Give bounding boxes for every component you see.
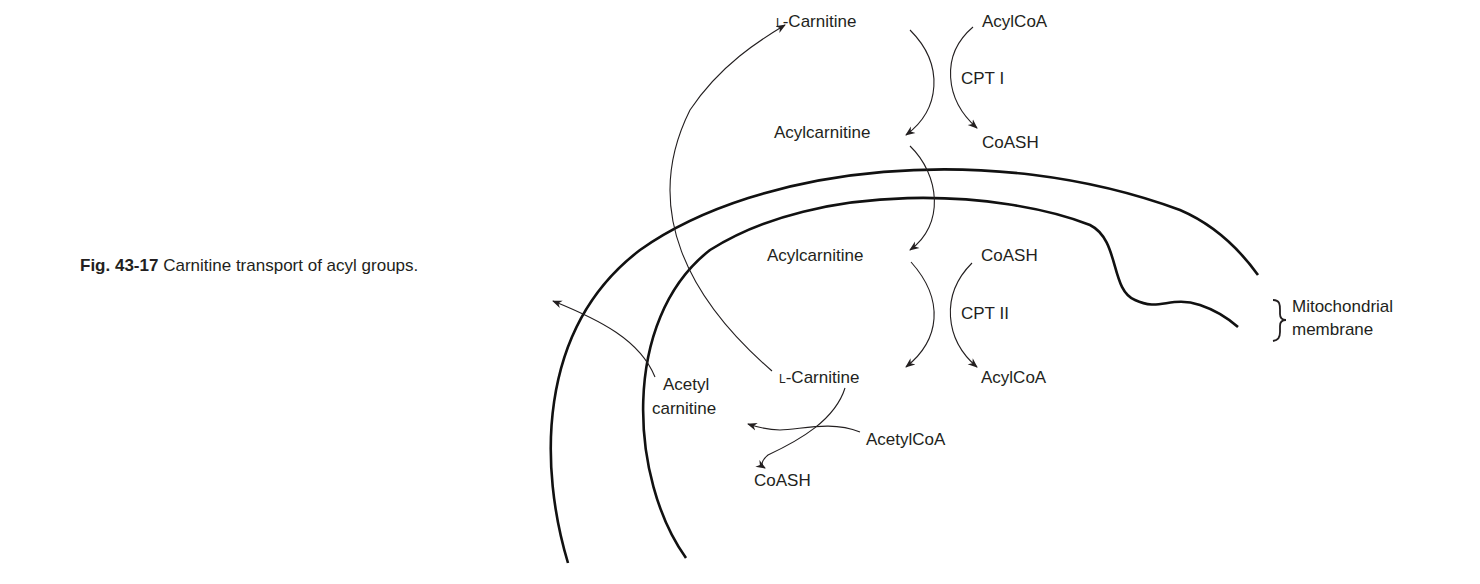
label-acylcarnitine-outer: Acylcarnitine: [774, 123, 870, 142]
label-coash-inner: CoASH: [981, 246, 1038, 265]
inner-membrane: [643, 198, 1238, 558]
cpt1-carnitine-arrow: [906, 30, 934, 135]
label-coash-outer: CoASH: [982, 133, 1039, 152]
acetylcoa-to-acetylcarnitine-arrow: [748, 424, 860, 432]
label-l-carnitine-outer: L-Carnitine: [776, 12, 856, 31]
label-acylcarnitine-inner: Acylcarnitine: [767, 246, 863, 265]
outer-membrane: [551, 169, 1258, 563]
label-membrane: membrane: [1292, 320, 1373, 339]
cpt2-acylcarnitine-arrow: [906, 262, 934, 367]
acetylcarnitine-export-arrow: [553, 301, 655, 377]
label-mitochondrial: Mitochondrial: [1292, 297, 1393, 316]
label-cpt1: CPT I: [961, 69, 1004, 88]
carnitine-transport-diagram: L-Carnitine AcylCoA CPT I Acylcarnitine …: [0, 0, 1480, 584]
label-acetylcoa: AcetylCoA: [866, 430, 946, 449]
label-acylcoa-outer: AcylCoA: [982, 12, 1048, 31]
label-l-carnitine-inner: L-Carnitine: [779, 368, 859, 387]
label-acylcoa-inner: AcylCoA: [981, 368, 1047, 387]
membrane-bracket: [1273, 300, 1286, 341]
label-acetyl-carnitine-line1: Acetyl: [663, 375, 709, 394]
label-acetyl-carnitine-line2: carnitine: [652, 399, 716, 418]
carnitine-return-arrow: [670, 25, 785, 371]
label-cpt2: CPT II: [961, 304, 1009, 323]
label-coash-acetyl: CoASH: [754, 471, 811, 490]
